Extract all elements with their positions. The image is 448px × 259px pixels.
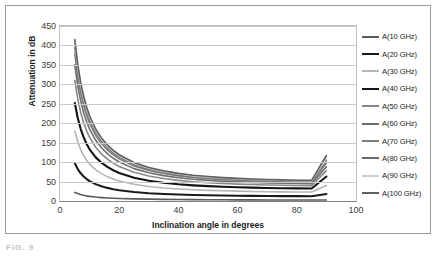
- gridline: [60, 143, 356, 144]
- legend-item[interactable]: A(70 GHz): [362, 132, 432, 149]
- legend-line-swatch: [362, 36, 379, 38]
- y-axis-tick-labels: 050100150200250300350400450: [20, 25, 56, 202]
- plot-area: [59, 25, 357, 202]
- legend-label: A(10 GHz): [382, 32, 417, 41]
- series-line: [75, 65, 327, 184]
- figure-caption: FIG. 9: [6, 243, 34, 252]
- legend-item[interactable]: A(50 GHz): [362, 98, 432, 115]
- series-line: [75, 40, 327, 181]
- legend-line-swatch: [362, 157, 379, 159]
- legend-line-swatch: [362, 70, 379, 72]
- legend-label: A(50 GHz): [382, 102, 417, 111]
- y-tick-label: 450: [41, 21, 56, 31]
- x-tick-label: 100: [348, 205, 363, 215]
- legend-line-swatch: [362, 105, 379, 107]
- legend-line-swatch: [362, 123, 379, 125]
- x-tick-label: 40: [173, 205, 183, 215]
- legend-label: A(20 GHz): [382, 50, 417, 59]
- x-tick-label: 80: [292, 205, 302, 215]
- gridline: [60, 26, 356, 27]
- legend-item[interactable]: A(100 GHz): [362, 185, 432, 202]
- legend-label: A(40 GHz): [382, 84, 417, 93]
- legend-label: A(80 GHz): [382, 154, 417, 163]
- gridline: [60, 123, 356, 124]
- x-tick-label: 0: [57, 205, 62, 215]
- gridline: [60, 104, 356, 105]
- legend-item[interactable]: A(20 GHz): [362, 45, 432, 62]
- y-tick-label: 200: [41, 118, 56, 128]
- gridline: [60, 84, 356, 85]
- legend-label: A(60 GHz): [382, 119, 417, 128]
- legend-line-swatch: [362, 140, 379, 142]
- chart-area: Attenuation in dB 0501001502002503003504…: [6, 6, 430, 233]
- x-axis-tick-labels: 020406080100: [59, 205, 357, 219]
- legend-item[interactable]: A(40 GHz): [362, 80, 432, 97]
- y-tick-label: 250: [41, 99, 56, 109]
- y-tick-label: 300: [41, 79, 56, 89]
- legend-item[interactable]: A(90 GHz): [362, 167, 432, 184]
- gridline: [60, 65, 356, 66]
- legend-label: A(70 GHz): [382, 137, 417, 146]
- y-tick-label: 350: [41, 60, 56, 70]
- series-lines: [60, 26, 356, 201]
- legend: A(10 GHz)A(20 GHz)A(30 GHz)A(40 GHz)A(50…: [362, 28, 432, 202]
- legend-line-swatch: [362, 192, 379, 194]
- legend-line-swatch: [362, 53, 379, 56]
- y-tick-label: 400: [41, 40, 56, 50]
- legend-label: A(30 GHz): [382, 67, 417, 76]
- y-tick-label: 100: [41, 157, 56, 167]
- legend-line-swatch: [362, 88, 379, 91]
- gridline: [60, 45, 356, 46]
- figure-frame: Attenuation in dB 0501001502002503003504…: [5, 5, 431, 234]
- legend-label: A(90 GHz): [382, 171, 417, 180]
- x-axis-title: Inclination angle in degrees: [59, 220, 357, 230]
- legend-label: A(100 GHz): [382, 189, 421, 198]
- gridline: [60, 162, 356, 163]
- gridline: [60, 182, 356, 183]
- y-tick-label: 50: [46, 177, 56, 187]
- legend-item[interactable]: A(80 GHz): [362, 150, 432, 167]
- legend-item[interactable]: A(30 GHz): [362, 63, 432, 80]
- legend-item[interactable]: A(60 GHz): [362, 115, 432, 132]
- y-tick-label: 0: [51, 196, 56, 206]
- legend-line-swatch: [362, 175, 379, 177]
- x-tick-label: 60: [233, 205, 243, 215]
- legend-item[interactable]: A(10 GHz): [362, 28, 432, 45]
- x-tick-label: 20: [114, 205, 124, 215]
- y-tick-label: 150: [41, 138, 56, 148]
